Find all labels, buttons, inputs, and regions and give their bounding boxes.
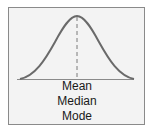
label-mean: Mean: [1, 79, 152, 94]
label-mode: Mode: [1, 109, 152, 124]
central-tendency-labels: Mean Median Mode: [0, 79, 152, 124]
label-median: Median: [1, 94, 152, 109]
